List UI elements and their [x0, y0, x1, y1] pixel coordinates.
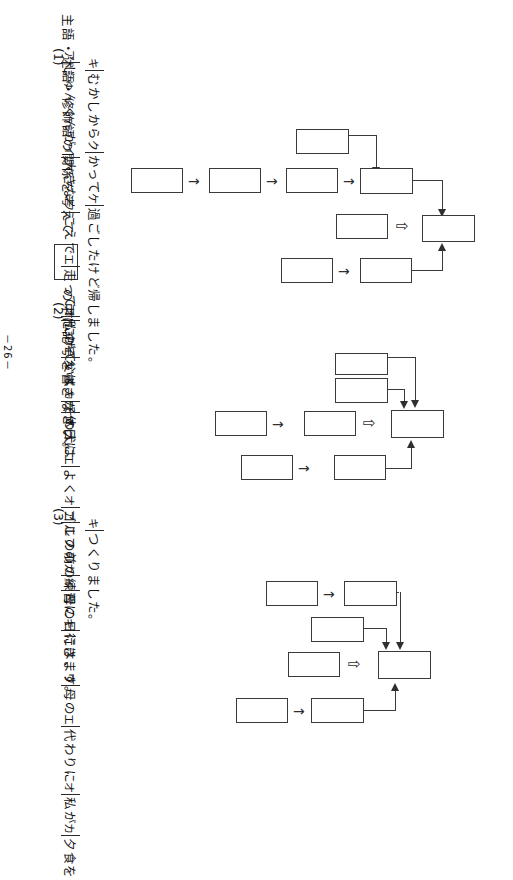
phrase-3-f: カ夕食を [61, 835, 80, 880]
diagram-3-box-final[interactable] [378, 651, 431, 679]
arrow-right-icon: → [293, 704, 305, 718]
hollow-arrow-right-icon: ⇨ [348, 657, 361, 672]
connector [364, 710, 396, 711]
phrase-3-e: オ私が [61, 794, 80, 826]
marker-label: カ [63, 823, 79, 835]
diagram-3-box-2[interactable] [344, 581, 397, 606]
arrowhead-down-icon [382, 642, 390, 650]
arrowhead-up-icon [391, 683, 399, 691]
diagram-3-box-5[interactable] [236, 698, 288, 723]
arrow-right-icon: → [323, 587, 335, 601]
connector [364, 628, 387, 629]
connector [395, 690, 396, 711]
marker-label: オ [63, 782, 79, 794]
diagram-3-box-3[interactable] [311, 617, 364, 642]
connector [400, 592, 401, 644]
diagram-3-box-6[interactable] [311, 698, 364, 723]
diagram-3-box-4[interactable] [288, 652, 340, 677]
arrowhead-down-icon [396, 642, 404, 650]
connector [397, 592, 399, 593]
diagram-3-box-1[interactable] [266, 581, 318, 606]
